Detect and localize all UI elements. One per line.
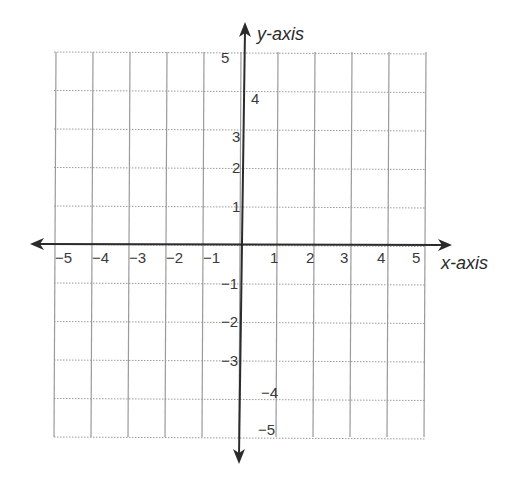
- x-tick-label: −3: [129, 249, 146, 266]
- horizontal-gridline: [54, 52, 426, 54]
- coordinate-plane: y-axis x-axis −5 −4 −3 −2 −1 1 2 3 4 5 5…: [0, 0, 523, 482]
- horizontal-gridline: [54, 91, 426, 93]
- x-tick-label: 2: [306, 249, 314, 266]
- x-tick-label: 3: [340, 249, 348, 266]
- y-axis: [233, 22, 251, 464]
- x-tick-label: −5: [55, 249, 72, 266]
- y-tick-label: −1: [221, 275, 238, 292]
- x-tick-labels: −5 −4 −3 −2 −1 1 2 3 4 5: [55, 249, 420, 266]
- x-tick-label: 1: [270, 249, 278, 266]
- y-tick-label: 5: [221, 49, 229, 66]
- y-tick-label: 4: [251, 90, 259, 107]
- x-tick-label: 5: [412, 249, 420, 266]
- x-tick-label: −4: [92, 249, 109, 266]
- y-tick-label: −4: [261, 384, 278, 401]
- x-tick-label: −1: [203, 249, 220, 266]
- y-tick-label: 2: [232, 159, 240, 176]
- x-axis-label: x-axis: [440, 253, 488, 273]
- y-tick-label: −2: [221, 313, 238, 330]
- y-tick-label: −3: [221, 352, 238, 369]
- x-tick-label: −2: [166, 249, 183, 266]
- y-tick-label: 1: [232, 198, 240, 215]
- y-tick-label: −5: [258, 421, 275, 438]
- y-tick-label: 3: [232, 128, 240, 145]
- x-tick-label: 4: [377, 249, 385, 266]
- y-axis-label: y-axis: [255, 24, 304, 44]
